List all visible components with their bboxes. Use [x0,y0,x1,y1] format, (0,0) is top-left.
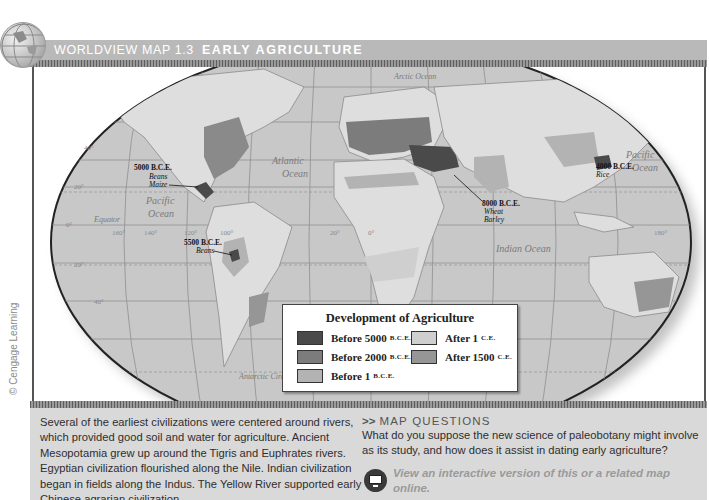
label-pacific-e-1: Pacific [625,149,655,160]
chevrons-icon: >> [362,415,375,427]
computer-monitor-icon[interactable] [364,469,387,492]
map-title: WORLDVIEW MAP 1.3 EARLY AGRICULTURE [54,43,363,57]
lat-label: 40° [94,298,104,306]
lon-label: 100° [220,229,234,237]
lat-label: 40° [84,144,94,152]
map-questions-title: MAP QUESTIONS [379,415,490,427]
lat-label: 0° [66,221,73,229]
lon-label: 20° [330,229,340,237]
legend-label: Before 2000 [331,351,387,363]
legend-era: C.E. [498,353,512,361]
online-map-link-text[interactable]: View an interactive version of this or a… [393,466,683,496]
label-atlantic-1: Atlantic [271,155,304,166]
map-series-label: WORLDVIEW MAP 1.3 [54,43,194,57]
map-question-text: What do you suppose the new science of p… [362,428,707,459]
legend-era: B.C.E. [373,372,394,380]
label-pacific-w-1: Pacific [145,195,175,206]
legend-item-after-1500: After 1500C.E. [411,350,512,364]
lat-label: 20° [74,261,84,269]
world-map: Atlantic Ocean Pacific Ocean Pacific Oce… [32,67,706,401]
legend-title: Development of Agriculture [283,311,517,326]
legend-era: B.C.E. [390,353,411,361]
caption-panel: Several of the earliest civilizations we… [30,408,707,500]
legend-swatch [297,350,323,364]
legend-item-before-5000: Before 5000B.C.E. [297,331,411,345]
online-map-link[interactable]: View an interactive version of this or a… [362,466,707,498]
annot-8000-crop-2: Barley [484,215,505,224]
map-caption: Several of the earliest civilizations we… [40,415,370,500]
label-equator: Equator [93,215,121,224]
legend-swatch [411,350,437,364]
annot-4000-crop-1: Rice [595,170,610,179]
label-atlantic-2: Ocean [282,168,308,179]
legend-item-before-1: Before 1B.C.E. [297,369,395,383]
legend-era: B.C.E. [390,334,411,342]
decorative-stripe-bottom [30,401,707,408]
decorative-stripe-top [30,60,707,67]
annot-5500-crop-1: Beans [196,246,214,255]
label-arctic-ocean: Arctic Ocean [393,72,436,81]
copyright-credit: © Cengage Learning [8,303,19,395]
lon-label: 160° [112,229,126,237]
lat-label: 20° [74,183,84,191]
map-legend: Development of Agriculture Before 5000B.… [282,304,518,392]
label-pacific-e-2: Ocean [632,162,658,173]
legend-swatch [297,331,323,345]
legend-label: Before 5000 [331,332,387,344]
legend-label: After 1500 [445,351,495,363]
legend-label: Before 1 [331,370,370,382]
legend-label: After 1 [445,332,478,344]
label-indian-ocean: Indian Ocean [495,243,551,254]
lon-label: 0° [368,229,375,237]
label-pacific-w-2: Ocean [148,208,174,219]
map-questions: >>MAP QUESTIONS What do you suppose the … [362,415,707,498]
legend-item-before-2000: Before 2000B.C.E. [297,350,411,364]
map-questions-heading: >>MAP QUESTIONS [362,415,707,427]
legend-swatch [411,331,437,345]
lon-label: 120° [184,229,198,237]
lon-label: 180° [654,229,668,237]
legend-item-after-1: After 1C.E. [411,331,496,345]
legend-era: C.E. [481,334,495,342]
map-name: EARLY AGRICULTURE [202,43,363,57]
legend-swatch [297,369,323,383]
globe-logo-icon [0,22,46,68]
annot-5000-date: 5000 B.C.E. [134,163,172,172]
lon-label: 140° [144,229,158,237]
annot-5000-crop-2: Maize [148,180,168,189]
map-header: WORLDVIEW MAP 1.3 EARLY AGRICULTURE [30,40,707,60]
